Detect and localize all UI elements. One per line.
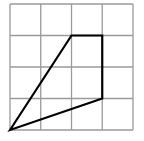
grid-diagram (0, 0, 144, 141)
grid-lines (10, 4, 133, 130)
quadrilateral-shape (10, 36, 102, 131)
